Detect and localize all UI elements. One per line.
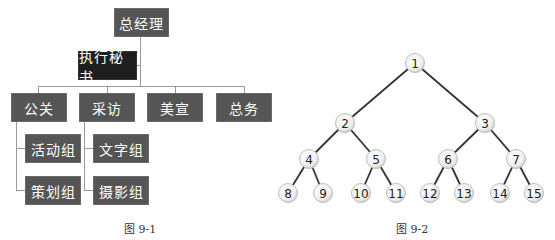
binary-tree: 123456789101112131415 <box>0 0 555 240</box>
svg-text:6: 6 <box>444 153 452 167</box>
tree-edge <box>345 63 415 123</box>
tree-node-1: 1 <box>406 54 425 73</box>
tree-node-10: 10 <box>352 184 371 203</box>
svg-text:14: 14 <box>492 187 507 201</box>
tree-node-11: 11 <box>387 184 406 203</box>
tree-node-6: 6 <box>439 150 458 169</box>
svg-text:15: 15 <box>526 187 541 201</box>
tree-node-4: 4 <box>300 150 319 169</box>
tree-node-2: 2 <box>336 114 355 133</box>
tree-node-8: 8 <box>279 184 298 203</box>
tree-edges <box>288 63 534 193</box>
svg-text:11: 11 <box>388 187 403 201</box>
svg-text:1: 1 <box>411 57 419 71</box>
tree-node-14: 14 <box>491 184 510 203</box>
svg-text:4: 4 <box>305 153 313 167</box>
svg-text:13: 13 <box>456 187 471 201</box>
svg-text:8: 8 <box>284 187 292 201</box>
tree-node-13: 13 <box>455 184 474 203</box>
tree-node-12: 12 <box>421 184 440 203</box>
svg-text:2: 2 <box>341 117 349 131</box>
tree-node-3: 3 <box>476 114 495 133</box>
svg-text:3: 3 <box>481 117 489 131</box>
svg-text:10: 10 <box>353 187 368 201</box>
tree-node-15: 15 <box>525 184 544 203</box>
tree-edge <box>415 63 485 123</box>
tree-node-7: 7 <box>507 150 526 169</box>
svg-text:5: 5 <box>372 153 380 167</box>
svg-text:7: 7 <box>512 153 520 167</box>
tree-node-9: 9 <box>314 184 333 203</box>
svg-text:12: 12 <box>422 187 437 201</box>
tree-node-5: 5 <box>367 150 386 169</box>
figure-caption-9-2: 图 9-2 <box>396 220 428 236</box>
svg-text:9: 9 <box>319 187 327 201</box>
